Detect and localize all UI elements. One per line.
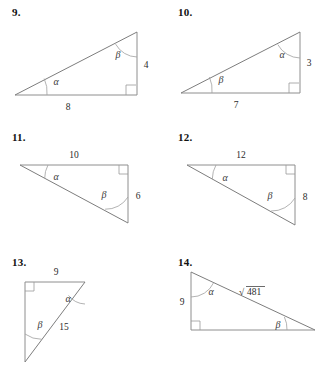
label-top-13: 9 — [54, 267, 59, 277]
label-vertical-11: 6 — [136, 191, 141, 201]
figure-11: 10 6 α β — [0, 125, 166, 250]
problem-13: 13. 9 15 α β — [0, 250, 166, 375]
problem-10: 10. 7 3 β α — [166, 0, 332, 125]
label-top-12: 12 — [236, 150, 246, 160]
label-alpha-11: α — [53, 171, 59, 182]
label-beta-11: β — [101, 189, 107, 200]
figure-14: 9 √ 481 α β — [166, 250, 332, 375]
label-alpha-14: α — [208, 286, 214, 297]
label-vertical-9: 4 — [144, 60, 149, 70]
label-vertical-14: 9 — [180, 297, 185, 307]
label-beta-9: β — [115, 49, 121, 60]
radicand-14: 481 — [247, 287, 262, 297]
label-hypotenuse-radical-14: √ 481 — [239, 287, 265, 298]
label-alpha-13: α — [65, 293, 71, 304]
problem-9: 9. 8 4 α β — [0, 0, 166, 125]
problem-11: 11. 10 6 α β — [0, 125, 166, 250]
label-hypotenuse-13: 15 — [59, 322, 69, 332]
label-alpha-9: α — [53, 76, 59, 87]
label-alpha-10: α — [279, 49, 285, 60]
label-base-9: 8 — [66, 102, 71, 112]
figure-13: 9 15 α β — [0, 250, 166, 375]
label-alpha-12: α — [222, 172, 228, 183]
problem-14: 14. 9 √ 481 α β — [166, 250, 332, 375]
label-beta-12: β — [267, 190, 273, 201]
label-beta-10: β — [218, 74, 224, 85]
label-vertical-10: 3 — [307, 58, 312, 68]
label-top-11: 10 — [69, 150, 79, 160]
label-beta-14: β — [275, 319, 281, 330]
figure-10: 7 3 β α — [166, 0, 332, 125]
label-vertical-12: 8 — [303, 192, 308, 202]
label-base-10: 7 — [234, 100, 239, 110]
problem-12: 12. 12 8 α β — [166, 125, 332, 250]
figure-12: 12 8 α β — [166, 125, 332, 250]
radical-symbol-14: √ — [239, 287, 245, 297]
figure-9: 8 4 α β — [0, 0, 166, 125]
label-beta-13: β — [37, 319, 43, 330]
worksheet-sheet: 9. 8 4 α β 10. — [0, 0, 332, 375]
